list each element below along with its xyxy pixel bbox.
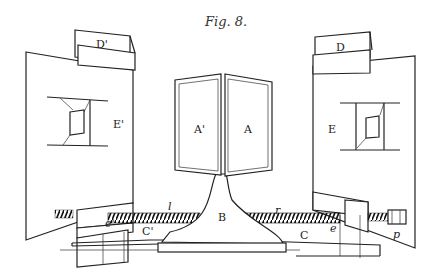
label-a: A — [244, 124, 252, 135]
label-d: D — [336, 42, 345, 53]
figure-title: Fig. 8. — [205, 14, 247, 29]
label-d-prime: D' — [96, 39, 108, 50]
label-p: p — [393, 229, 400, 240]
figure-drawing — [0, 0, 438, 274]
label-b: B — [218, 212, 226, 223]
right-lower-clamp — [313, 192, 368, 258]
label-e-lower: e — [330, 223, 337, 234]
label-l: l — [168, 201, 172, 212]
left-lower-clamp — [77, 203, 133, 267]
knob-p — [388, 210, 406, 224]
label-e-prime: E' — [113, 119, 124, 130]
label-e: E — [328, 124, 336, 135]
label-a-prime: A' — [194, 124, 205, 135]
label-c: C — [300, 230, 308, 241]
label-r: r — [275, 205, 280, 216]
label-e-prime-lower: e' — [105, 218, 115, 229]
label-c-prime: C' — [142, 226, 153, 237]
